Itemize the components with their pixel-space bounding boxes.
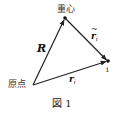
point-i-dot <box>106 59 110 63</box>
vector-R-label: R <box>37 43 46 54</box>
figure-caption: 図 1 <box>52 99 72 109</box>
vector-r-tilde-subscript: i <box>96 35 98 42</box>
vector-r-tilde-i-label: ri <box>91 32 98 42</box>
vector-r-i-label: ri <box>69 75 76 85</box>
vector-r-tilde-symbol: r <box>91 31 96 41</box>
vector-r-tilde-i-arrow <box>65 18 107 60</box>
center-of-mass-label: 重心 <box>57 5 75 14</box>
center-of-mass-point <box>63 16 67 20</box>
vector-R-symbol: R <box>37 42 46 55</box>
vector-r-i-subscript: i <box>74 78 76 85</box>
tilde-accent-icon: r <box>91 32 96 41</box>
point-i-label: i <box>106 66 109 74</box>
origin-label: 原点 <box>8 80 26 89</box>
